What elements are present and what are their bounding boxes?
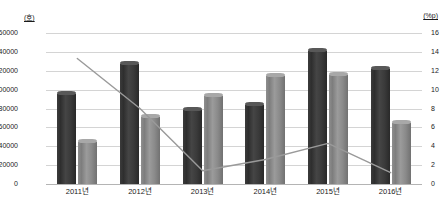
x-axis-tick-2013년: 2013년	[171, 188, 234, 196]
x-axis-tick-2016년: 2016년	[359, 188, 422, 196]
right-axis-tick: 8	[426, 105, 444, 112]
right-axis-tick: 16	[426, 29, 444, 36]
left-axis-tick: 160000	[0, 29, 22, 36]
right-axis-tick: 10	[426, 86, 444, 93]
right-axis-tick: 12	[426, 67, 444, 74]
x-axis-tick-2014년: 2014년	[234, 188, 297, 196]
right-axis-tick: 14	[426, 48, 444, 55]
x-axis-tick-2015년: 2015년	[297, 188, 360, 196]
left-axis-tick: 40000	[0, 142, 22, 149]
gridline	[46, 184, 422, 185]
line-series-path	[77, 59, 390, 173]
right-axis-tick: 4	[426, 142, 444, 149]
right-axis-tick: 6	[426, 123, 444, 130]
chart-container: (호) (%p) 0200004000060000800001000001200…	[0, 0, 444, 214]
left-axis-tick: 120000	[0, 67, 22, 74]
left-axis-unit-label: (호)	[24, 12, 35, 22]
left-axis-tick: 60000	[0, 123, 22, 130]
right-axis-tick: 0	[426, 180, 444, 187]
right-axis-tick: 2	[426, 161, 444, 168]
left-axis-tick: 100000	[0, 86, 22, 93]
line-series-layer	[46, 33, 422, 184]
left-axis-tick: 20000	[0, 161, 22, 168]
plot-area: 0200004000060000800001000001200001400001…	[46, 33, 422, 184]
x-axis-tick-2012년: 2012년	[109, 188, 172, 196]
x-axis-tick-2011년: 2011년	[46, 188, 109, 196]
right-axis-unit-label: (%p)	[423, 12, 438, 19]
left-axis-tick: 80000	[0, 105, 22, 112]
left-axis-tick: 0	[0, 180, 22, 187]
left-axis-tick: 140000	[0, 48, 22, 55]
